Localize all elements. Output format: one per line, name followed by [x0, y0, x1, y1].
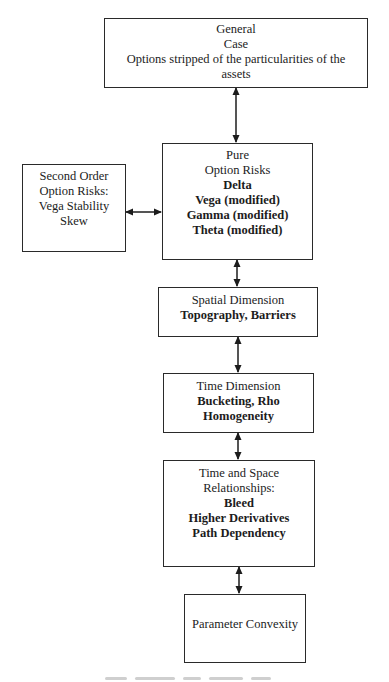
node-time-line-1: Time Dimension: [164, 379, 313, 394]
node-pure-line-3: Delta: [163, 178, 312, 193]
node-pure-line-1: Pure: [163, 148, 312, 163]
node-time-and-space-relationships: Time and Space Relationships: Bleed High…: [163, 460, 315, 567]
node-parameter-convexity: Parameter Convexity: [184, 594, 306, 663]
node-second-order-line-2: Option Risks:: [23, 184, 125, 199]
node-second-order-line-1: Second Order: [23, 169, 125, 184]
node-second-order-line-3: Vega Stability: [23, 199, 125, 214]
node-time-line-3: Homogeneity: [164, 409, 313, 424]
node-time-space-line-2: Relationships:: [164, 481, 314, 496]
node-pure-line-6: Theta (modified): [163, 223, 312, 238]
node-second-order-line-4: Skew: [23, 214, 125, 229]
node-pure-line-4: Vega (modified): [163, 193, 312, 208]
node-general-case-line-1: General: [105, 22, 367, 37]
node-pure-line-2: Option Risks: [163, 163, 312, 178]
node-spatial-line-1: Spatial Dimension: [159, 293, 317, 308]
node-general-case: General Case Options stripped of the par…: [104, 18, 368, 88]
node-general-case-line-4: assets: [105, 67, 367, 82]
node-spatial-line-2: Topography, Barriers: [159, 308, 317, 323]
node-time-dimension: Time Dimension Bucketing, Rho Homogeneit…: [163, 373, 314, 433]
node-spatial-dimension: Spatial Dimension Topography, Barriers: [158, 287, 318, 337]
connector-layer: [0, 0, 389, 682]
node-time-space-line-1: Time and Space: [164, 466, 314, 481]
node-time-space-line-4: Higher Derivatives: [164, 511, 314, 526]
node-second-order-option-risks: Second Order Option Risks: Vega Stabilit…: [22, 164, 126, 252]
node-time-space-line-5: Path Dependency: [164, 526, 314, 541]
cutoff-caption-remnant: [105, 674, 295, 682]
node-general-case-line-2: Case: [105, 37, 367, 52]
node-time-line-2: Bucketing, Rho: [164, 394, 313, 409]
node-time-space-line-3: Bleed: [164, 496, 314, 511]
node-pure-option-risks: Pure Option Risks Delta Vega (modified) …: [162, 143, 313, 260]
node-pure-line-5: Gamma (modified): [163, 208, 312, 223]
node-general-case-line-3: Options stripped of the particularities …: [105, 52, 367, 67]
node-parameter-line-1: Parameter Convexity: [185, 617, 305, 632]
